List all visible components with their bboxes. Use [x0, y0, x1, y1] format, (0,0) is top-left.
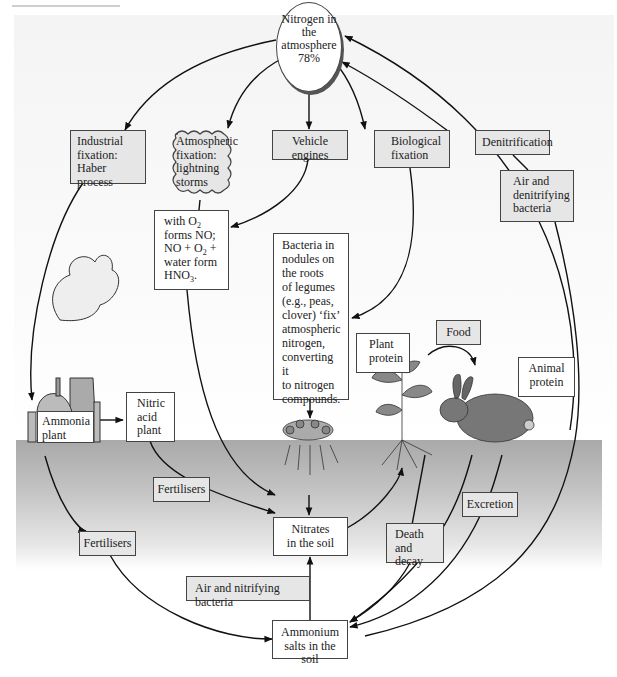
excretion-box: Excretion [462, 492, 518, 517]
air-denitrifying-bacteria-box: Air and denitrifying bacteria [500, 170, 574, 222]
label-line: clover) ‘fix’ [282, 308, 342, 322]
label-line: plant [137, 424, 168, 438]
label-line: compounds. [282, 392, 342, 406]
arrow-nitrates-to-plant [347, 468, 402, 528]
animal-protein-box: Animal protein [518, 357, 575, 397]
label-line: nodules on [282, 252, 342, 266]
air-nitrifying-bacteria-box: Air and nitrifying bacteria [186, 576, 310, 601]
label-line: (e.g., peas, [282, 294, 342, 308]
label-line: and decay [395, 542, 437, 569]
biological-fixation-box: Biological fixation [374, 130, 450, 168]
label-line: Industrial [77, 135, 139, 149]
denitrification-box: Denitrification [475, 130, 550, 155]
fertilisers-upper-box: Fertilisers [153, 477, 210, 502]
label-line: nitrogen, [282, 336, 342, 350]
arrow-plant-to-rabbit [428, 346, 475, 365]
label-line: Death [395, 528, 437, 542]
atmosphere-label: Nitrogen in the atmosphere 78% [281, 12, 336, 65]
legume-bacteria-box: Bacteria in nodules on the roots of legu… [273, 233, 349, 400]
label-line: atmospheric [282, 322, 342, 336]
label-line: Biological [391, 135, 443, 149]
label-line: lightning [176, 162, 227, 176]
label-line: engines [279, 149, 341, 163]
label-line: Atmospheric [176, 135, 227, 149]
label-line: Haber process [77, 162, 139, 189]
label-line: of legumes [282, 280, 342, 294]
seedling-plant-illustration [372, 361, 432, 470]
label-line: salts in the soil [275, 640, 345, 667]
food-box: Food [436, 320, 481, 345]
label: Denitrification [482, 135, 553, 149]
label-line: to nitrogen [282, 378, 342, 392]
arrow-bio-to-legume [352, 168, 413, 318]
label-line: NO + O2 + [164, 242, 222, 256]
label-line: in the soil [280, 537, 341, 551]
label: Fertilisers [158, 482, 206, 496]
label-line: plant [42, 428, 89, 442]
label-line: fixation: [176, 149, 227, 163]
label-line: protein [369, 352, 403, 366]
label-line: Vehicle [279, 135, 341, 149]
label-line: Animal [525, 362, 568, 376]
plant-protein-box: Plant protein [356, 333, 410, 373]
atmosphere-node: Nitrogen in the atmosphere 78% [276, 2, 342, 92]
label: Excretion [467, 497, 514, 511]
industrial-fixation-box: Industrial fixation: Haber process [70, 130, 146, 184]
label-line: converting it [282, 350, 342, 378]
label-line: fixation [391, 149, 443, 163]
arrow-no-to-nitrates [187, 290, 275, 495]
arrow-atm-to-denitrif [342, 62, 448, 131]
label-line: water form [164, 256, 222, 270]
label-line: Bacteria in [282, 238, 342, 252]
nitric-acid-plant-box: Nitric acid plant [126, 392, 175, 442]
label: Fertilisers [84, 536, 132, 550]
atmospheric-fixation-box: Atmospheric fixation: lightning storms [170, 130, 233, 196]
label-line: Nitrates [280, 523, 341, 537]
label-line: Plant [369, 338, 403, 352]
arrow-vehicle-to-no [231, 159, 308, 227]
ammonium-salts-box: Ammonium salts in the soil [272, 620, 348, 659]
vehicle-engines-box: Vehicle engines [272, 130, 348, 160]
label-line: acid [137, 411, 168, 425]
label-line: Ammonia [42, 414, 89, 428]
label-line: bacteria [513, 202, 567, 216]
label-line: Air and [513, 175, 567, 189]
no-formation-box: with O2 forms NO; NO + O2 + water form H… [154, 210, 229, 290]
arrow-atm-to-lightning [228, 58, 283, 128]
fertilisers-lower-box: Fertilisers [79, 531, 136, 556]
label-line: fixation: [77, 149, 139, 163]
label-line: Nitric [137, 397, 168, 411]
arrow-atm-to-industrial [125, 40, 276, 130]
death-and-decay-box: Death and decay [386, 523, 444, 563]
label-line: protein [525, 376, 568, 390]
ammonia-plant-box: Ammonia plant [37, 411, 94, 443]
nitrates-in-soil-box: Nitrates in the soil [273, 517, 348, 556]
label-line: denitrifying [513, 189, 567, 203]
label-line: forms NO; [164, 229, 222, 243]
label-line: with O2 [164, 215, 222, 229]
label-line: the roots [282, 266, 342, 280]
label-line: Ammonium [275, 626, 345, 640]
label-line: storms [176, 176, 227, 190]
label-line: HNO3. [164, 269, 222, 283]
label: Food [446, 325, 471, 339]
legume-plant-illustration [283, 420, 338, 475]
